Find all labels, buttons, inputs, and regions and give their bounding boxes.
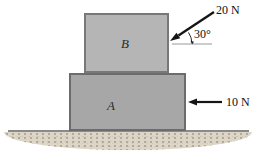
force-10n-label: 10 N — [226, 96, 250, 108]
force-20n-label: 20 N — [216, 4, 240, 16]
block-b-label: B — [121, 37, 129, 50]
stacked-blocks-force-diagram: B A 20 N 30° 10 N — [0, 0, 257, 154]
force-10n-arrowhead — [188, 99, 197, 106]
angle-30deg-label: 30° — [194, 28, 211, 40]
block-a-label: A — [107, 99, 115, 112]
force-arrows-layer — [0, 0, 257, 154]
